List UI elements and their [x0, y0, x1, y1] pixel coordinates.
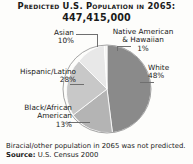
- leader-line-asian-drop: [97, 34, 98, 47]
- footnote-source: Source: U.S. Census 2000: [6, 151, 191, 160]
- pie-graphic: [62, 44, 152, 134]
- page-title: Predicted U.S. Population in 2065:: [0, 1, 193, 12]
- label-hispanic-percent: 28%: [2, 76, 76, 84]
- label-black-percent: 13%: [8, 121, 72, 129]
- source-value: U.S. Census 2000: [36, 151, 99, 159]
- label-asian-percent: 10%: [30, 37, 74, 45]
- footnote-note: Biracial/other population in 2065 was no…: [6, 142, 191, 151]
- label-hispanic-latino: Hispanic/Latino 28%: [2, 68, 76, 85]
- leader-line-asian: [76, 34, 98, 35]
- label-white-percent: 48%: [148, 72, 188, 80]
- label-black-african-american: Black/African American 13%: [8, 104, 72, 129]
- footnotes: Biracial/other population in 2065 was no…: [6, 142, 191, 159]
- source-label: Source:: [6, 151, 36, 159]
- pie-svg: [62, 44, 152, 134]
- label-native-percent: 1%: [108, 45, 178, 53]
- pie-slice-white: [107, 45, 151, 133]
- title-block: Predicted U.S. Population in 2065: 447,4…: [0, 1, 193, 24]
- label-asian: Asian 10%: [30, 29, 74, 46]
- pie-chart-figure: Predicted U.S. Population in 2065: 447,4…: [0, 0, 193, 164]
- label-native-american-hawaiian: Native American & Hawaiian 1%: [108, 28, 178, 53]
- total-population-value: 447,415,000: [0, 12, 193, 24]
- label-white: White 48%: [148, 64, 188, 81]
- leader-line-white: [140, 82, 154, 83]
